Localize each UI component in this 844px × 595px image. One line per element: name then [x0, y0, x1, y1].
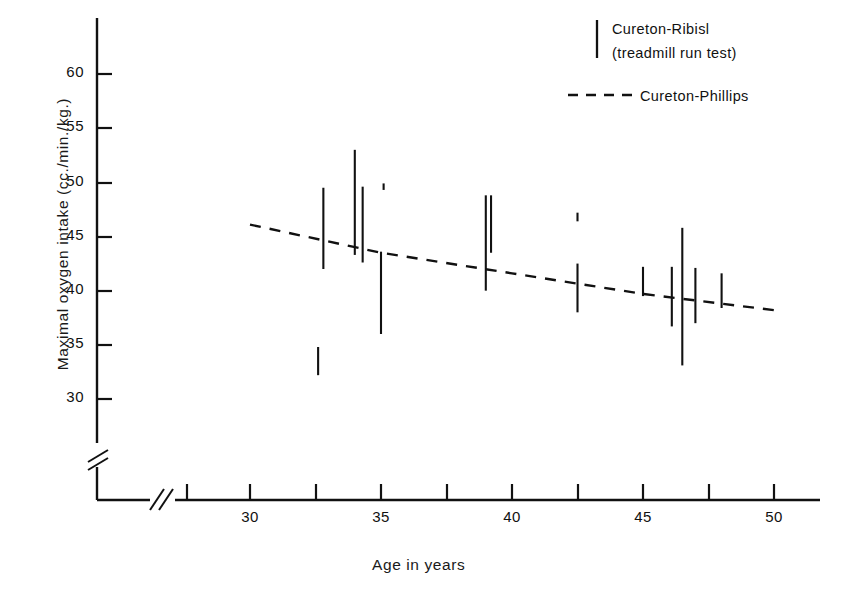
y-tick-label-30: 30 [50, 388, 84, 405]
x-tick-label-35: 35 [361, 508, 401, 525]
legend-sublabel-treadmill-run-test: (treadmill run test) [612, 45, 737, 61]
x-tick-label-45: 45 [623, 508, 663, 525]
x-tick-label-30: 30 [230, 508, 270, 525]
legend-label-cureton-phillips: Cureton-Phillips [640, 88, 749, 104]
x-axis-ticks [187, 484, 774, 500]
x-axis-title: Age in years [372, 556, 465, 574]
y-tick-label-60: 60 [50, 63, 84, 80]
data-series-cureton-ribisl [318, 150, 721, 375]
figure-container: 60 55 50 45 40 35 30 30 35 40 45 50 Maxi… [0, 0, 844, 595]
legend-label-cureton-ribisl: Cureton-Ribisl [612, 21, 709, 37]
y-axis-title: Maximal oxygen intake (cc./min./kg.) [54, 79, 72, 389]
y-axis-ticks [97, 74, 112, 399]
x-tick-label-50: 50 [754, 508, 794, 525]
x-tick-label-40: 40 [492, 508, 532, 525]
